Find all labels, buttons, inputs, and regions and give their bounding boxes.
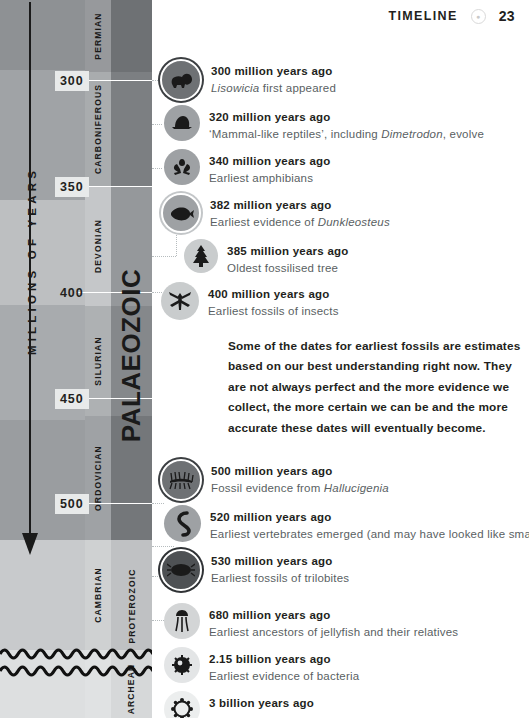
event-text: 680 million years ago Earliest ancestors…	[209, 603, 458, 641]
period-label: DEVONIAN	[93, 219, 103, 273]
period-label: PROTEROZOIC	[127, 569, 137, 644]
list-item[interactable]: 3 billion years ago	[164, 691, 314, 718]
event-subtitle: Earliest ancestors of jellyfish and thei…	[209, 624, 458, 641]
period-permian: PERMIAN	[85, 0, 111, 72]
list-item[interactable]: 400 million years ago Earliest fossils o…	[161, 282, 339, 320]
event-title: 3 billion years ago	[209, 696, 314, 710]
tick-label-450: 450	[55, 389, 89, 409]
fish-icon	[161, 193, 201, 233]
leader-line	[152, 168, 162, 169]
period-silurian: SILURIAN	[85, 306, 111, 416]
event-subtitle: Earliest evidence of Dunkleosteus	[210, 214, 390, 231]
event-title: 320 million years ago	[209, 110, 484, 124]
timeline-page: TIMELINE ● 23 MILLIONS OF YEARS	[0, 0, 529, 718]
period-ordovician: ORDOVICIAN	[85, 416, 111, 540]
list-item[interactable]: 320 million years ago ‘Mammal-like repti…	[164, 105, 484, 143]
event-subtitle: Earliest vertebrates emerged (and may ha…	[210, 526, 529, 543]
period-label: CAMBRIAN	[93, 567, 103, 622]
leader-line	[152, 546, 174, 547]
list-item[interactable]: 385 million years ago Oldest fossilised …	[184, 239, 349, 277]
axis-arrow-head	[22, 533, 38, 555]
event-subtitle: Oldest fossilised tree	[227, 260, 349, 277]
period-label: SILURIAN	[93, 336, 103, 385]
event-title: 385 million years ago	[227, 244, 349, 258]
list-item[interactable]: 300 million years ago Lisowicia first ap…	[160, 59, 336, 101]
event-title: 340 million years ago	[209, 154, 331, 168]
event-subtitle: Earliest fossils of insects	[208, 303, 339, 320]
zigzag-break	[0, 645, 152, 679]
scale-lane	[0, 0, 85, 70]
period-label: CARBONIFEROUS	[93, 84, 103, 174]
event-title: 300 million years ago	[211, 64, 336, 78]
event-text: 300 million years ago Lisowicia first ap…	[211, 59, 336, 97]
event-title: 2.15 billion years ago	[209, 652, 359, 666]
event-title: 530 million years ago	[211, 554, 349, 568]
era-label: PALAEOZOIC	[116, 268, 147, 442]
list-item[interactable]: 500 million years ago Fossil evidence fr…	[160, 459, 389, 501]
amphibian-icon	[164, 149, 200, 185]
event-text: 530 million years ago Earliest fossils o…	[211, 549, 349, 587]
geologic-scale-column: MILLIONS OF YEARS 300 350 400 450 500 PE…	[0, 0, 152, 718]
tick-label-400: 400	[55, 283, 89, 303]
tick-label-350: 350	[55, 177, 89, 197]
event-subtitle: Lisowicia first appeared	[211, 80, 336, 97]
event-title: 400 million years ago	[208, 287, 339, 301]
leader-line	[152, 256, 176, 257]
event-subtitle: Earliest amphibians	[209, 170, 331, 187]
microbe-icon	[164, 691, 200, 718]
event-text: 340 million years ago Earliest amphibian…	[209, 149, 331, 187]
event-text: 320 million years ago ‘Mammal-like repti…	[209, 105, 484, 143]
period-devonian: DEVONIAN	[85, 186, 111, 306]
tick-label-300: 300	[55, 71, 89, 91]
event-text: 520 million years ago Earliest vertebrat…	[210, 505, 529, 543]
event-text: 3 billion years ago	[209, 691, 314, 710]
list-item[interactable]: 340 million years ago Earliest amphibian…	[164, 149, 331, 187]
period-label: ORDOVICIAN	[93, 445, 103, 511]
jellyfish-icon	[164, 603, 200, 639]
list-item[interactable]: 2.15 billion years ago Earliest evidence…	[164, 647, 359, 685]
event-title: 520 million years ago	[210, 510, 529, 524]
list-item[interactable]: 520 million years ago Earliest vertebrat…	[164, 505, 529, 543]
event-text: 500 million years ago Fossil evidence fr…	[211, 459, 389, 497]
events-list: 300 million years ago Lisowicia first ap…	[152, 0, 529, 718]
tick-label-500: 500	[55, 494, 89, 514]
period-label: PERMIAN	[93, 12, 103, 59]
period-carboniferous: CARBONIFEROUS	[85, 72, 111, 186]
list-item[interactable]: 530 million years ago Earliest fossils o…	[160, 549, 349, 591]
period-proterozoic-label: PROTEROZOIC	[111, 556, 152, 656]
callout-note: Some of the dates for earliest fossils a…	[228, 336, 528, 438]
era-palaeozoic: PALAEOZOIC	[111, 170, 152, 540]
hallucigenia-icon	[160, 459, 202, 501]
event-subtitle: Earliest evidence of bacteria	[209, 668, 359, 685]
leader-line	[152, 124, 162, 125]
bacteria-icon	[164, 647, 200, 683]
event-title: 382 million years ago	[210, 198, 390, 212]
trilobite-icon	[160, 549, 202, 591]
event-subtitle: Fossil evidence from Hallucigenia	[211, 480, 389, 497]
event-text: 2.15 billion years ago Earliest evidence…	[209, 647, 359, 685]
event-title: 500 million years ago	[211, 464, 389, 478]
event-subtitle: ‘Mammal-like reptiles’, including Dimetr…	[209, 126, 484, 143]
event-title: 680 million years ago	[209, 608, 458, 622]
event-text: 385 million years ago Oldest fossilised …	[227, 239, 349, 277]
tree-icon	[184, 239, 218, 273]
axis-title: MILLIONS OF YEARS	[26, 166, 38, 356]
eel-icon	[164, 505, 201, 542]
list-item[interactable]: 680 million years ago Earliest ancestors…	[164, 603, 458, 641]
period-cambrian: CAMBRIAN	[85, 540, 111, 650]
list-item[interactable]: 382 million years ago Earliest evidence …	[161, 193, 390, 233]
dragonfly-icon	[161, 282, 199, 320]
dimetrodon-icon	[164, 105, 200, 141]
leader-line	[152, 503, 164, 504]
event-text: 382 million years ago Earliest evidence …	[210, 193, 390, 231]
leader-line	[152, 620, 164, 621]
event-subtitle: Earliest fossils of trilobites	[211, 570, 349, 587]
event-text: 400 million years ago Earliest fossils o…	[208, 282, 339, 320]
dicynodont-icon	[160, 59, 202, 101]
